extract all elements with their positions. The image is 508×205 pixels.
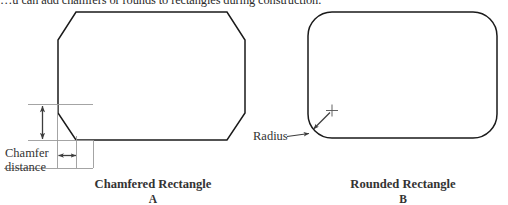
figure-root: …u can add chamfers or rounds to rectang… bbox=[0, 0, 508, 205]
caption-letter-b: B bbox=[318, 193, 488, 205]
radius-label: Radius bbox=[253, 129, 288, 144]
chamfered-rectangle-shape bbox=[58, 12, 245, 140]
chamfer-distance-label: Chamfer distance bbox=[5, 147, 49, 174]
chamfer-distance-label-line1: Chamfer bbox=[5, 147, 49, 161]
chamfer-distance-label-line2: distance bbox=[5, 161, 49, 175]
rounded-rectangle-shape bbox=[308, 12, 497, 138]
radius-leader-line bbox=[287, 134, 309, 137]
caption-letter-a: A bbox=[68, 193, 238, 205]
caption-chamfered-rectangle: Chamfered Rectangle bbox=[68, 177, 238, 192]
figure-drawing-canvas bbox=[0, 0, 508, 205]
caption-rounded-rectangle: Rounded Rectangle bbox=[318, 177, 488, 192]
